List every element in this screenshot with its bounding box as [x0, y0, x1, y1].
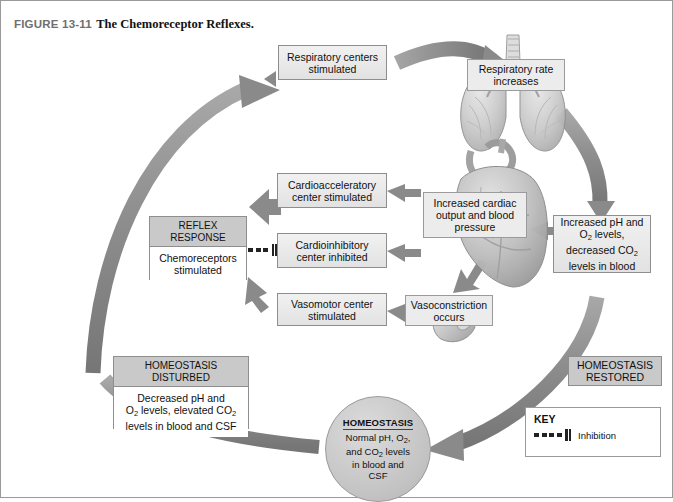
- node-respiratory-rate[interactable]: Respiratory rate increases: [467, 59, 565, 91]
- homeostasis-disturbed-box[interactable]: HOMEOSTASIS DISTURBED Decreased pH and O…: [113, 356, 249, 429]
- homeostasis-disturbed-body: Decreased pH and O2 levels, elevated CO2…: [114, 387, 248, 437]
- inhibition-connector: [248, 244, 278, 256]
- node-cardiac-output[interactable]: Increased cardiac output and blood press…: [423, 192, 527, 238]
- homeostasis-restored-box[interactable]: HOMEOSTASIS RESTORED: [568, 356, 662, 386]
- dash-segment: [542, 433, 547, 437]
- inhibition-symbol: [534, 429, 571, 441]
- inhibition-bar: [272, 244, 275, 256]
- reflex-response-body: Chemoreceptors stimulated: [150, 247, 246, 281]
- line-3: decreased CO: [566, 244, 634, 256]
- homeostasis-disturbed-header: HOMEOSTASIS DISTURBED: [114, 357, 248, 387]
- inhibition-bar: [569, 429, 572, 441]
- key-title: KEY: [534, 413, 660, 425]
- dash-segment: [557, 433, 562, 437]
- line-2-o: O: [579, 228, 587, 240]
- node-vasoconstriction[interactable]: Vasoconstriction occurs: [405, 295, 493, 326]
- node-blood-gas-restored[interactable]: Increased pH and O2 levels, decreased CO…: [553, 215, 651, 273]
- line-2-rest: levels,: [592, 228, 625, 240]
- homeostasis-center-circle[interactable]: HOMEOSTASIS Normal pH, O2, and CO2 level…: [325, 396, 431, 502]
- reflex-response-box[interactable]: REFLEX RESPONSE Chemoreceptors stimulate…: [149, 216, 247, 280]
- lungs-icon: [461, 35, 566, 151]
- dash-segment: [256, 248, 261, 252]
- homeostasis-center-heading: HOMEOSTASIS: [343, 417, 414, 430]
- homeostasis-center-body: Normal pH, O2, and CO2 levels in blood a…: [346, 432, 411, 481]
- dash-segment: [534, 433, 539, 437]
- dash-segment: [549, 433, 554, 437]
- line-1: Increased pH and: [561, 216, 644, 228]
- node-cardioacceleratory[interactable]: Cardioacceleratory center stimulated: [277, 173, 387, 208]
- node-vasomotor[interactable]: Vasomotor center stimulated: [277, 293, 387, 326]
- reflex-response-header: REFLEX RESPONSE: [150, 217, 246, 247]
- key-legend: KEY Inhibition: [525, 407, 661, 457]
- key-inhibition-label: Inhibition: [578, 430, 616, 441]
- node-respiratory-centers[interactable]: Respiratory centers stimulated: [278, 45, 387, 80]
- inhibition-bar: [565, 429, 568, 441]
- dash-segment: [263, 248, 268, 252]
- line-4: levels in blood: [569, 260, 636, 272]
- key-inhibition-row: Inhibition: [534, 429, 660, 441]
- dash-segment: [248, 248, 253, 252]
- node-cardioinhibitory[interactable]: Cardioinhibitory center inhibited: [277, 233, 387, 268]
